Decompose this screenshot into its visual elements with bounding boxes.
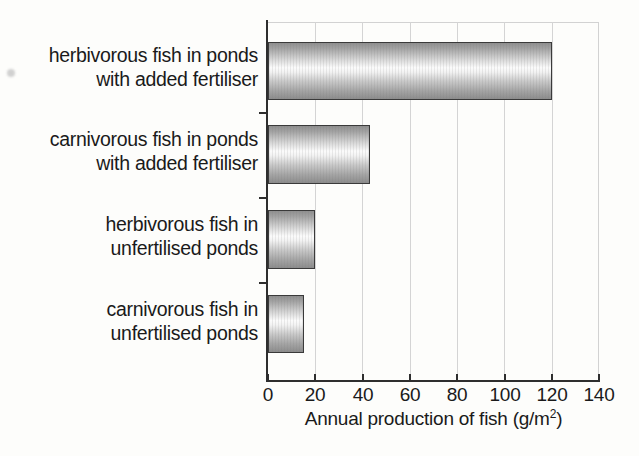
x-axis-tick-40 (362, 374, 364, 382)
x-tick-label-140: 140 (583, 384, 614, 406)
x-axis-title-text: Annual production of fish (g/m (305, 408, 550, 429)
x-tick-label-0: 0 (263, 384, 273, 406)
bar-carnivorous-fertilised (268, 125, 370, 184)
category-label-carnivorous-unfertilised: carnivorous fish in unfertilised ponds (107, 297, 258, 345)
scan-speck-artifact (7, 69, 15, 77)
category-label-line-2: unfertilised ponds (105, 236, 258, 260)
x-tick-label-80: 80 (447, 384, 468, 406)
x-tick-label-100: 100 (489, 384, 520, 406)
bar-herbivorous-unfertilised (268, 210, 315, 269)
bar-carnivorous-unfertilised (268, 295, 304, 353)
category-label-herbivorous-fertilised: herbivorous fish in ponds with added fer… (49, 43, 258, 91)
gridline-120 (552, 22, 553, 380)
x-axis-tick-100 (504, 374, 506, 382)
bar-herbivorous-fertilised (268, 42, 552, 100)
category-label-line-1: carnivorous fish in ponds (50, 127, 258, 151)
plot-area (268, 22, 599, 380)
x-axis-tick-60 (409, 374, 411, 382)
x-axis-tick-0 (267, 374, 269, 382)
y-axis-tick-1 (259, 112, 268, 114)
x-tick-label-40: 40 (353, 384, 374, 406)
x-axis-tick-140 (598, 374, 600, 382)
x-tick-label-120: 120 (536, 384, 567, 406)
category-label-line-1: herbivorous fish in ponds (49, 43, 258, 67)
category-label-line-2: with added fertiliser (49, 67, 258, 91)
category-label-line-1: carnivorous fish in (107, 297, 258, 321)
x-axis-tick-20 (314, 374, 316, 382)
category-label-herbivorous-unfertilised: herbivorous fish in unfertilised ponds (105, 212, 258, 260)
category-label-carnivorous-fertilised: carnivorous fish in ponds with added fer… (50, 127, 258, 175)
x-axis-title-tail: ) (556, 408, 562, 429)
y-axis-tick-2 (259, 197, 268, 199)
y-axis-tick-3 (259, 282, 268, 284)
x-axis-tick-120 (551, 374, 553, 382)
category-label-line-2: unfertilised ponds (107, 321, 258, 345)
category-label-line-2: with added fertiliser (50, 151, 258, 175)
x-tick-label-20: 20 (305, 384, 326, 406)
bar-chart-figure: 0 20 40 60 80 100 120 140 Annual product… (0, 0, 639, 456)
category-label-line-1: herbivorous fish in (105, 212, 258, 236)
y-axis-line (266, 20, 268, 382)
x-axis-tick-80 (456, 374, 458, 382)
x-tick-label-60: 60 (400, 384, 421, 406)
x-axis-title: Annual production of fish (g/m2) (268, 408, 599, 430)
